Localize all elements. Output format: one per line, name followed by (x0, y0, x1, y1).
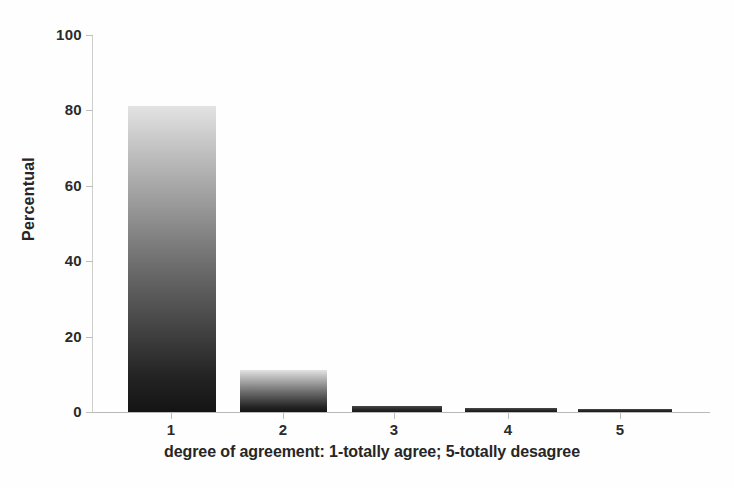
y-tick-label-40: 40 (38, 252, 82, 269)
y-tick-mark-20 (86, 337, 93, 338)
plot-area: 100 80 60 40 20 0 1 2 3 4 5 (0, 0, 734, 487)
x-tick-mark-2 (283, 413, 284, 419)
y-tick-label-100: 100 (38, 26, 82, 43)
x-tick-mark-5 (620, 413, 621, 419)
x-axis-title: degree of agreement: 1-totally agree; 5-… (92, 443, 652, 461)
bar-category-3 (352, 406, 442, 412)
y-tick-mark-100 (86, 35, 93, 36)
y-tick-mark-60 (86, 186, 93, 187)
x-tick-mark-4 (508, 413, 509, 419)
y-axis-title: Percentual (20, 129, 38, 269)
x-tick-label-4: 4 (488, 421, 528, 438)
x-tick-mark-1 (171, 413, 172, 419)
bar-category-2 (240, 370, 327, 412)
y-tick-label-20: 20 (38, 328, 82, 345)
chart-figure: 100 80 60 40 20 0 1 2 3 4 5 (0, 0, 734, 487)
y-tick-label-0-wrap: 0 (30, 403, 82, 421)
x-tick-mark-3 (394, 413, 395, 419)
y-axis-line (92, 35, 93, 413)
y-tick-mark-80 (86, 110, 93, 111)
x-tick-label-1: 1 (151, 421, 191, 438)
x-tick-label-5: 5 (600, 421, 640, 438)
y-tick-label-60: 60 (38, 177, 82, 194)
y-tick-label-100-wrap: 100 (30, 26, 82, 44)
x-tick-label-3: 3 (374, 421, 414, 438)
bar-category-1 (128, 106, 216, 412)
y-tick-mark-40 (86, 261, 93, 262)
y-tick-label-80-wrap: 80 (30, 101, 82, 119)
y-tick-label-20-wrap: 20 (30, 328, 82, 346)
x-axis-line (92, 412, 710, 413)
x-tick-label-2: 2 (263, 421, 303, 438)
y-tick-label-0: 0 (38, 403, 82, 420)
y-tick-mark-0 (86, 412, 93, 413)
bar-category-4 (465, 408, 557, 412)
bar-category-5 (578, 409, 672, 412)
y-tick-label-80: 80 (38, 101, 82, 118)
